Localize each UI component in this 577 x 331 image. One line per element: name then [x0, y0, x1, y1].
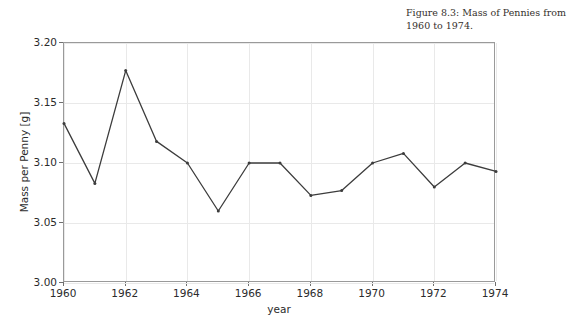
x-axis-tick-label: 1960 — [50, 287, 77, 299]
x-axis-tick-label: 1970 — [358, 287, 385, 299]
data-point — [155, 140, 158, 143]
y-axis-tick-mark — [59, 222, 63, 223]
data-point — [340, 189, 343, 192]
data-point — [309, 194, 312, 197]
y-axis-tick-label: 3.15 — [21, 96, 57, 108]
y-axis-tick-mark — [59, 102, 63, 103]
x-axis-tick-label: 1966 — [235, 287, 262, 299]
y-axis-tick-mark — [59, 162, 63, 163]
data-point — [93, 182, 96, 185]
y-axis-tick-mark — [59, 282, 63, 283]
x-axis-label: year — [267, 303, 290, 315]
data-point — [217, 210, 220, 213]
data-point — [371, 162, 374, 165]
data-point — [248, 162, 251, 165]
series-polyline — [64, 71, 496, 211]
y-axis-tick-label: 3.10 — [21, 156, 57, 168]
data-point — [402, 152, 405, 155]
y-axis-tick-label: 3.20 — [21, 36, 57, 48]
data-point — [279, 162, 282, 165]
y-axis-tick-mark — [59, 42, 63, 43]
figure-container: Figure 8.3: Mass of Pennies from 1960 to… — [0, 0, 577, 331]
data-point — [495, 170, 498, 173]
x-axis-tick-label: 1974 — [482, 287, 509, 299]
x-axis-tick-label: 1972 — [420, 287, 447, 299]
gridline-horizontal — [64, 283, 494, 284]
data-series-line — [64, 43, 496, 283]
data-point — [124, 69, 127, 72]
data-point — [464, 162, 467, 165]
series-markers — [63, 69, 498, 212]
x-axis-tick-label: 1962 — [111, 287, 138, 299]
x-axis-tick-label: 1968 — [296, 287, 323, 299]
x-axis-tick-label: 1964 — [173, 287, 200, 299]
y-axis-tick-label: 3.05 — [21, 216, 57, 228]
plot-area — [63, 42, 495, 282]
data-point — [63, 122, 66, 125]
data-point — [433, 186, 436, 189]
data-point — [186, 162, 189, 165]
gridline-vertical — [496, 43, 497, 281]
figure-caption: Figure 8.3: Mass of Pennies from 1960 to… — [406, 6, 571, 32]
